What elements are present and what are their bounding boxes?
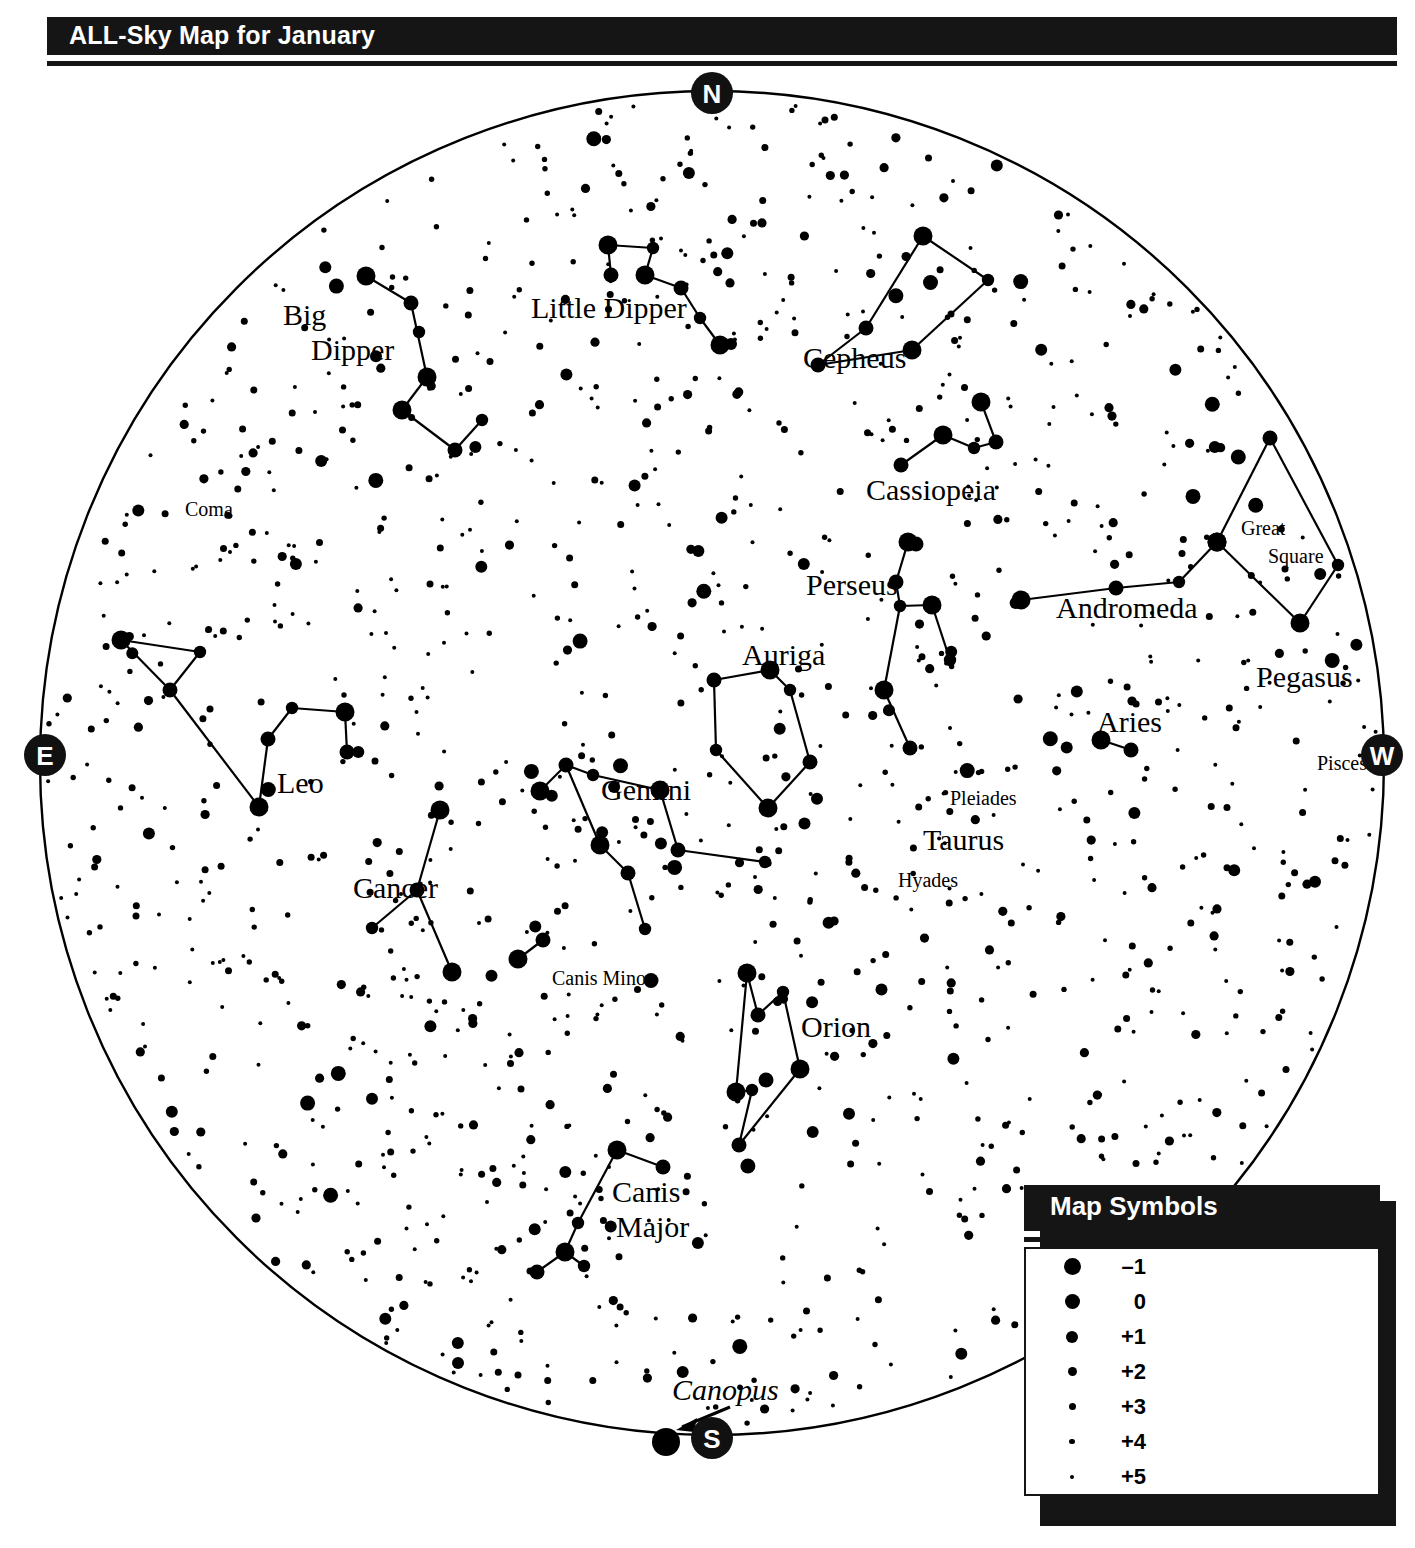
background-star: [594, 384, 599, 389]
background-star: [1021, 863, 1025, 867]
constellation-star: [759, 1073, 774, 1088]
background-star: [728, 215, 737, 224]
background-star: [553, 1017, 557, 1021]
background-star: [389, 1307, 394, 1312]
background-star: [1286, 882, 1291, 887]
background-star: [660, 176, 665, 181]
constellation-line: [790, 690, 810, 762]
background-star: [476, 351, 480, 355]
background-star: [1109, 518, 1118, 527]
constellation-star: [738, 964, 757, 983]
background-star: [493, 769, 498, 774]
background-star: [440, 517, 444, 521]
background-star: [946, 808, 953, 815]
background-star: [719, 893, 724, 898]
background-star: [504, 760, 508, 764]
background-star: [808, 1391, 812, 1395]
background-star: [688, 1313, 697, 1322]
constellation-star: [1124, 743, 1139, 758]
background-star: [415, 710, 419, 714]
background-star: [559, 1166, 571, 1178]
constellation-star: [443, 963, 462, 982]
background-star: [497, 441, 502, 446]
background-star: [555, 615, 560, 620]
background-star: [554, 660, 559, 665]
background-star: [1237, 720, 1241, 724]
background-star: [723, 1124, 728, 1129]
background-star: [1011, 1321, 1018, 1328]
background-star: [452, 1357, 464, 1369]
background-star: [91, 864, 98, 871]
background-star: [645, 609, 649, 613]
constellation-star: [604, 268, 619, 283]
background-star: [388, 948, 393, 953]
background-star: [505, 1387, 510, 1392]
background-star: [468, 1019, 477, 1028]
background-star: [1067, 519, 1071, 523]
background-star: [201, 798, 206, 803]
background-star: [1216, 443, 1225, 452]
background-star: [278, 552, 287, 561]
background-star: [1080, 1048, 1089, 1057]
background-star: [149, 453, 153, 457]
background-star: [514, 1048, 523, 1057]
background-star: [372, 758, 379, 765]
constellation-star: [578, 1260, 590, 1272]
background-star: [68, 843, 73, 848]
label-auriga: Auriga: [742, 638, 825, 671]
background-star: [1166, 709, 1170, 713]
background-star: [975, 592, 980, 597]
background-star: [1070, 246, 1075, 251]
background-star: [239, 454, 243, 458]
background-star: [735, 1314, 740, 1319]
background-star: [63, 693, 72, 702]
background-star: [211, 961, 215, 965]
background-star: [1020, 1186, 1024, 1190]
background-star: [920, 934, 929, 943]
constellation-star: [559, 758, 574, 773]
background-star: [46, 721, 51, 726]
background-star: [643, 1374, 652, 1383]
background-star: [926, 796, 931, 801]
background-star: [677, 700, 684, 707]
background-star: [480, 549, 484, 553]
background-star: [427, 1141, 431, 1145]
background-star: [1150, 1010, 1154, 1014]
background-star: [800, 231, 809, 240]
background-star: [646, 202, 655, 211]
constellation-star: [727, 1083, 746, 1102]
background-star: [385, 199, 389, 203]
background-star: [286, 1001, 290, 1005]
compass-east: E: [24, 734, 66, 776]
background-star: [426, 696, 430, 700]
background-star: [352, 722, 356, 726]
background-star: [490, 975, 494, 979]
background-star: [1212, 1108, 1221, 1117]
background-star: [105, 997, 109, 1001]
background-star: [1309, 876, 1321, 888]
background-star: [1043, 731, 1058, 746]
background-star: [1157, 989, 1161, 993]
background-star: [1057, 693, 1061, 697]
label-canis-minor: Canis Minor: [552, 967, 653, 989]
star-dot-icon: [1070, 1475, 1074, 1479]
background-star: [721, 247, 733, 259]
background-star: [1309, 1031, 1313, 1035]
background-star: [923, 275, 938, 290]
constellation-star: [791, 1060, 810, 1079]
star-dot-icon: [1069, 1439, 1075, 1445]
background-star: [870, 195, 874, 199]
constellation-star: [366, 922, 378, 934]
background-star: [866, 269, 875, 278]
background-star: [699, 839, 703, 843]
background-star: [985, 945, 994, 954]
background-star: [521, 1155, 525, 1159]
background-star: [753, 940, 757, 944]
legend-row: +5: [1026, 1459, 1378, 1494]
background-star: [373, 838, 382, 847]
background-star: [640, 832, 647, 839]
background-star: [428, 858, 432, 862]
background-star: [387, 1149, 394, 1156]
background-star: [567, 992, 571, 996]
background-star: [251, 1213, 260, 1222]
